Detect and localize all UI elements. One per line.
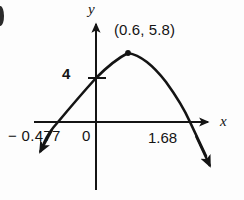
x-intercept-right-label: 1.68 xyxy=(148,130,177,145)
x-axis-label: x xyxy=(220,114,227,129)
vertex-coordinate-label: (0.6, 5.8) xyxy=(114,22,175,37)
x-intercept-left-label: − 0.477 xyxy=(8,128,61,143)
curve-right-arrow xyxy=(196,136,210,166)
y-axis xyxy=(88,24,106,190)
parabola-graph-figure: y x (0.6, 5.8) 4 − 0.477 0 1.68 xyxy=(0,0,244,200)
origin-label: 0 xyxy=(82,128,90,143)
y-axis-label: y xyxy=(88,2,95,17)
vertex-point-marker xyxy=(125,50,131,56)
y-intercept-value-label: 4 xyxy=(62,66,70,81)
